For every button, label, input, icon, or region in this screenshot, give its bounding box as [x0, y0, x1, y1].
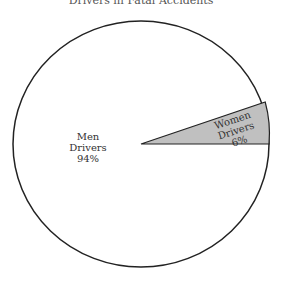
men-label: Men Drivers 94% — [58, 131, 118, 164]
men-label-line3: 94% — [58, 153, 118, 164]
men-label-line2: Drivers — [58, 142, 118, 153]
men-label-line1: Men — [58, 131, 118, 142]
